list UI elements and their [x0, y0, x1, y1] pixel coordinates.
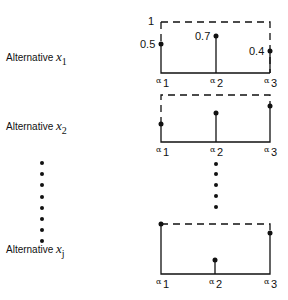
- svg-text:1: 1: [163, 278, 169, 290]
- axis-labels-1: α1 α2 α3: [156, 76, 277, 89]
- svg-text:α: α: [209, 277, 215, 286]
- svg-text:α: α: [210, 145, 216, 154]
- value-label-a3: 0.4: [249, 45, 264, 57]
- axis-labels-2: α1 α2 α3: [156, 145, 277, 158]
- svg-text:α: α: [264, 76, 270, 85]
- svg-text:3: 3: [271, 77, 277, 89]
- axis-labels-j: α1 α2 α3: [156, 277, 277, 290]
- svg-text:2: 2: [216, 278, 222, 290]
- svg-text:2: 2: [217, 146, 223, 158]
- value-label-a2: 0.7: [195, 30, 210, 42]
- chart-alternative-2: [161, 95, 270, 142]
- value-label-a1: 0.5: [140, 38, 155, 50]
- max-label: 1: [148, 15, 154, 27]
- points-alternative-j: [159, 222, 273, 263]
- svg-text:1: 1: [163, 146, 169, 158]
- svg-text:3: 3: [271, 278, 277, 290]
- chart-alternative-j: [161, 224, 270, 274]
- middle-ellipsis-dots: [214, 162, 218, 209]
- svg-text:α: α: [156, 145, 162, 154]
- svg-text:α: α: [156, 76, 162, 85]
- svg-text:α: α: [156, 277, 162, 286]
- svg-text:α: α: [264, 277, 270, 286]
- left-ellipsis-dots: [40, 161, 44, 243]
- svg-text:α: α: [264, 145, 270, 154]
- svg-text:α: α: [210, 76, 216, 85]
- svg-text:2: 2: [217, 77, 223, 89]
- svg-text:3: 3: [271, 146, 277, 158]
- membership-diagram: 1 0.5 0.7 0.4 α1 α2 α3 α1 α2 α3 α1 α2 α3: [0, 0, 288, 300]
- svg-text:1: 1: [163, 77, 169, 89]
